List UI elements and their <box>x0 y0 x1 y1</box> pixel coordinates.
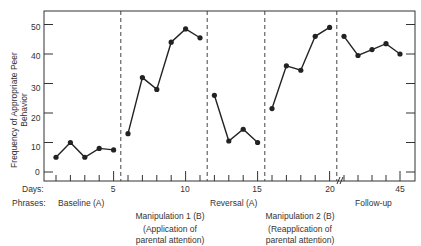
y-axis-title-line2: Behavior <box>19 50 29 170</box>
y-axis-title-line1: Frequency of Appropriate Peer <box>9 50 19 170</box>
phase-sublabel-manipulation-2: (Reapplication of <box>268 225 332 234</box>
data-point <box>327 25 332 30</box>
data-point <box>284 63 289 68</box>
x-tick-label: 20 <box>325 185 334 194</box>
x-tick-label: 45 <box>395 185 404 194</box>
phase-dividers <box>121 11 337 181</box>
data-point <box>383 41 388 46</box>
data-point <box>82 155 87 160</box>
y-tick-label: 0 <box>35 168 40 177</box>
data-point <box>369 47 374 52</box>
series-line <box>344 36 400 55</box>
x-tick-label: 15 <box>252 185 261 194</box>
y-tick-label: 40 <box>31 52 40 61</box>
data-point <box>125 131 130 136</box>
y-axis-title: Frequency of Appropriate Peer Behavior <box>9 50 29 170</box>
data-point <box>255 140 260 145</box>
phase-label-reversal: Reversal (A) <box>210 199 257 208</box>
data-point <box>154 87 159 92</box>
phase-label-followup: Follow-up <box>355 199 392 208</box>
days-label: Days: <box>22 185 44 194</box>
phase-label-baseline: Baseline (A) <box>58 199 104 208</box>
chart-plot-area <box>0 0 421 246</box>
data-point <box>197 35 202 40</box>
phases-label: Phrases: <box>12 199 46 208</box>
x-tick-label: 10 <box>180 185 189 194</box>
data-point <box>355 53 360 58</box>
axis-ticks <box>44 25 415 185</box>
data-point <box>269 106 274 111</box>
data-point <box>298 68 303 73</box>
series-line <box>214 95 257 142</box>
data-point <box>68 140 73 145</box>
x-tick-label: 5 <box>111 185 116 194</box>
data-point <box>53 155 58 160</box>
phase-sublabel-manipulation-1: parental attention) <box>136 236 205 245</box>
phase-sublabel-manipulation-1: (Application of <box>143 225 197 234</box>
phase-label-manipulation-1: Manipulation 1 (B) <box>136 212 205 221</box>
data-point <box>313 34 318 39</box>
y-tick-label: 10 <box>31 143 40 152</box>
data-point <box>341 34 346 39</box>
series-line <box>128 29 200 134</box>
phase-sublabel-manipulation-2: parental attention) <box>266 236 335 245</box>
data-point <box>183 26 188 31</box>
data-point <box>140 75 145 80</box>
y-tick-label: 30 <box>31 84 40 93</box>
data-series <box>53 25 402 160</box>
data-point <box>226 138 231 143</box>
chart-frame <box>44 11 415 181</box>
data-point <box>241 127 246 132</box>
y-tick-label: 20 <box>31 114 40 123</box>
plot-border <box>44 11 415 181</box>
data-point <box>212 93 217 98</box>
y-tick-label: 50 <box>31 23 40 32</box>
data-point <box>169 40 174 45</box>
data-point <box>397 51 402 56</box>
phase-label-manipulation-2: Manipulation 2 (B) <box>266 212 335 221</box>
data-point <box>111 147 116 152</box>
data-point <box>97 146 102 151</box>
